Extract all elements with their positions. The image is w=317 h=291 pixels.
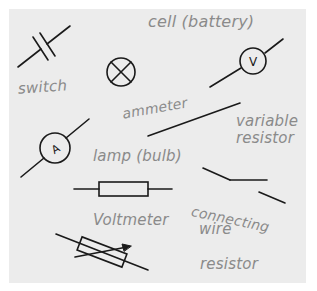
voltmeter-letter: V	[249, 55, 258, 69]
label-resistor: resistor	[200, 257, 258, 272]
label-voltmeter: Voltmeter	[93, 213, 169, 228]
variable-resistor-symbol	[56, 234, 148, 270]
label-connecting-wire-2: wire	[199, 222, 232, 237]
lamp-symbol	[107, 58, 135, 86]
label-variable-resistor-1: variable	[236, 114, 298, 129]
label-variable-resistor-2: resistor	[236, 131, 294, 146]
label-switch: switch	[18, 78, 68, 96]
ammeter-letter: A	[49, 142, 62, 157]
cell-symbol	[18, 26, 70, 67]
label-lamp: lamp (bulb)	[93, 149, 182, 164]
voltmeter-symbol: V	[210, 39, 283, 87]
resistor-symbol	[74, 182, 172, 196]
ammeter-symbol: A	[21, 119, 89, 177]
label-cell: cell (battery)	[148, 14, 254, 30]
switch-symbol	[203, 168, 285, 203]
